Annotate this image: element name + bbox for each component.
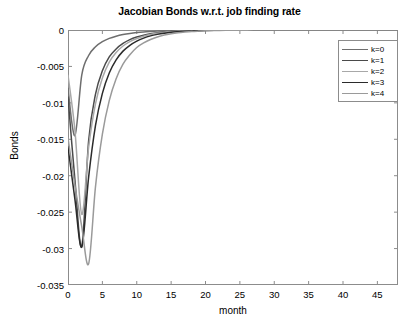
x-tick-label: 45 <box>372 289 383 300</box>
legend-item[interactable]: k=1 <box>342 55 394 66</box>
x-tick-label: 25 <box>235 289 246 300</box>
figure-canvas: Jacobian Bonds w.r.t. job finding rate B… <box>0 0 419 329</box>
legend-line-icon <box>342 49 368 50</box>
x-tick-label: 40 <box>338 289 349 300</box>
x-tick-label: 0 <box>65 289 70 300</box>
y-tick-label: -0.03 <box>42 243 64 254</box>
legend-item[interactable]: k=0 <box>342 44 394 55</box>
y-tick-label: -0.015 <box>37 134 64 145</box>
legend-item-label: k=3 <box>371 79 384 87</box>
y-tick-label: -0.005 <box>37 61 64 72</box>
x-tick-label: 35 <box>303 289 314 300</box>
legend-item-label: k=2 <box>371 68 384 76</box>
y-axis-tick-labels: 0-0.005-0.01-0.015-0.02-0.025-0.03-0.035 <box>0 30 64 285</box>
x-tick-label: 20 <box>200 289 211 300</box>
legend-item-label: k=4 <box>371 90 384 98</box>
x-tick-label: 15 <box>166 289 177 300</box>
x-tick-label: 30 <box>269 289 280 300</box>
x-tick-label: 10 <box>131 289 142 300</box>
legend-item[interactable]: k=2 <box>342 66 394 77</box>
chart-legend[interactable]: k=0k=1k=2k=3k=4 <box>338 40 398 102</box>
legend-item[interactable]: k=4 <box>342 88 394 99</box>
x-tick-label: 5 <box>100 289 105 300</box>
x-axis-label: month <box>68 305 398 316</box>
y-tick-label: -0.02 <box>42 170 64 181</box>
y-tick-label: -0.01 <box>42 97 64 108</box>
chart-title: Jacobian Bonds w.r.t. job finding rate <box>0 5 419 17</box>
y-tick-label: 0 <box>59 25 64 36</box>
legend-line-icon <box>342 93 368 94</box>
legend-line-icon <box>342 60 368 61</box>
x-axis-tick-labels: 051015202530354045 <box>68 289 398 303</box>
legend-line-icon <box>342 71 368 72</box>
legend-item-label: k=1 <box>371 57 384 65</box>
legend-item[interactable]: k=3 <box>342 77 394 88</box>
y-tick-label: -0.035 <box>37 280 64 291</box>
y-tick-label: -0.025 <box>37 207 64 218</box>
legend-item-label: k=0 <box>371 46 384 54</box>
legend-line-icon <box>342 82 368 83</box>
